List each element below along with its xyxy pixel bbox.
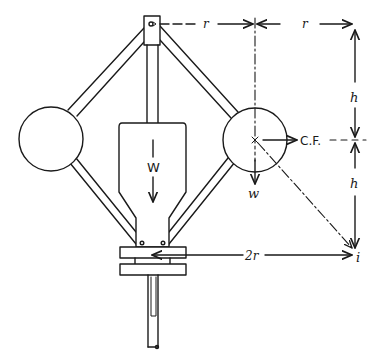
label-h-lower: h xyxy=(350,176,358,191)
top-pivot-block xyxy=(144,16,160,45)
central-weight-label: W xyxy=(147,160,160,175)
central-rod xyxy=(147,45,158,123)
label-2r: 2r xyxy=(244,249,260,263)
centrifugal-force-label: C.F. xyxy=(300,134,321,148)
governor-diagram: W r r w C.F. h xyxy=(0,0,380,356)
upper-right-arm xyxy=(160,26,238,118)
lower-collar xyxy=(120,264,186,275)
collar-spacer xyxy=(135,258,170,264)
left-ball xyxy=(19,107,83,171)
spindle xyxy=(148,275,159,349)
instantaneous-center-label: i xyxy=(356,250,360,265)
upper-left-arm xyxy=(68,28,144,116)
label-h-upper: h xyxy=(350,90,358,105)
label-r-right: r xyxy=(302,17,309,31)
ball-to-i-line xyxy=(258,143,352,248)
upper-collar xyxy=(120,247,186,258)
ball-weight-label: w xyxy=(248,186,259,201)
label-r-left: r xyxy=(203,17,210,31)
